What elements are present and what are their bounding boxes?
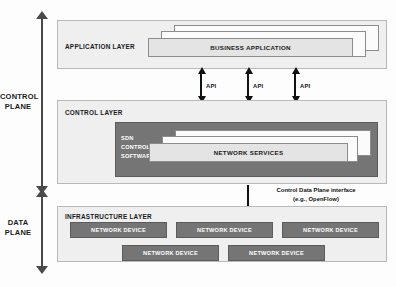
data-plane-label: DATA PLANE <box>0 218 36 238</box>
cdpi-line1: Control Data Plane interface <box>256 186 376 195</box>
infrastructure-layer-title: INFRASTRUCTURE LAYER <box>65 213 152 220</box>
data-plane-label-line1: DATA <box>0 218 36 228</box>
api-arrow-3-up-head-icon <box>292 67 300 74</box>
network-device-2-label: NETWORK DEVICE <box>197 227 252 233</box>
business-application-box-front[interactable]: BUSINESS APPLICATION <box>148 38 353 57</box>
network-device-5-label: NETWORK DEVICE <box>249 250 304 256</box>
network-device-1[interactable]: NETWORK DEVICE <box>70 222 167 238</box>
control-layer-title: CONTROL LAYER <box>65 109 123 116</box>
api-label-3: API <box>300 83 310 89</box>
api-arrow-1-shaft <box>200 74 202 96</box>
sdn-architecture-diagram: CONTROL PLANE DATA PLANE APPLICATION LAY… <box>0 0 396 287</box>
application-layer-title: APPLICATION LAYER <box>65 43 135 50</box>
network-device-2[interactable]: NETWORK DEVICE <box>176 222 273 238</box>
control-data-plane-interface-label: Control Data Plane interface (e.g., Open… <box>256 186 376 203</box>
api-label-2: API <box>253 83 263 89</box>
data-plane-label-line2: PLANE <box>0 228 36 238</box>
control-plane-label: CONTROL PLANE <box>0 92 36 112</box>
application-layer-panel: APPLICATION LAYER BUSINESS APPLICATION <box>57 20 387 69</box>
network-device-5[interactable]: NETWORK DEVICE <box>228 245 325 261</box>
network-device-4-label: NETWORK DEVICE <box>143 250 198 256</box>
data-plane-rail <box>41 196 43 268</box>
api-arrow-2-shaft <box>247 74 249 96</box>
network-services-stack: NETWORK SERVICES <box>149 130 374 172</box>
api-arrow-3-shaft <box>294 74 296 96</box>
network-device-1-label: NETWORK DEVICE <box>91 227 146 233</box>
network-device-3[interactable]: NETWORK DEVICE <box>282 222 379 238</box>
data-plane-bottom-arrowhead-icon <box>36 266 48 274</box>
api-arrow-1-up-head-icon <box>198 67 206 74</box>
cdpi-line2: (e.g., OpenFlow) <box>256 195 376 204</box>
network-device-3-label: NETWORK DEVICE <box>303 227 358 233</box>
control-layer-panel: CONTROL LAYER SDN CONTROL SOFTWARE NETWO… <box>57 100 387 184</box>
network-services-box-front[interactable]: NETWORK SERVICES <box>149 143 348 162</box>
api-arrow-2-up-head-icon <box>245 67 253 74</box>
network-services-label: NETWORK SERVICES <box>214 149 284 156</box>
control-plane-label-line2: PLANE <box>0 102 36 112</box>
sdn-control-software-box: SDN CONTROL SOFTWARE NETWORK SERVICES <box>115 122 378 177</box>
control-plane-rail <box>41 18 43 188</box>
business-application-stack: BUSINESS APPLICATION <box>148 25 388 67</box>
business-application-label: BUSINESS APPLICATION <box>210 44 291 51</box>
network-device-4[interactable]: NETWORK DEVICE <box>122 245 219 261</box>
control-plane-label-line1: CONTROL <box>0 92 36 102</box>
api-label-1: API <box>206 83 216 89</box>
